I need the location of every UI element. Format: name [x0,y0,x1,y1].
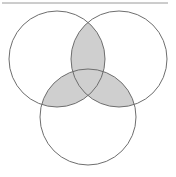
venn-diagram [0,0,176,177]
